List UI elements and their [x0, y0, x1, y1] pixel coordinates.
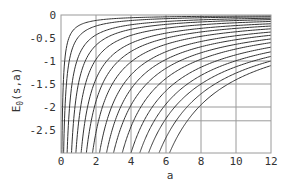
- y-tick-label: -2.5: [30, 124, 57, 137]
- x-tick-label: 8: [198, 155, 205, 168]
- y-tick-label: -1.5: [30, 78, 57, 91]
- y-tick-label: 0: [49, 9, 56, 22]
- x-tick-label: 4: [128, 155, 135, 168]
- x-tick-label: 10: [229, 155, 242, 168]
- y-axis-label: E0(s,a): [10, 68, 25, 113]
- x-tick-label: 0: [58, 155, 65, 168]
- y-tick-label: -2: [43, 101, 56, 114]
- y-tick-label: -0.5: [30, 32, 57, 45]
- y-axis-ticks: 0-0.5-1-1.5-2-2.5: [30, 9, 57, 137]
- x-axis-label: a: [167, 169, 174, 182]
- series-curve-2: [64, 17, 271, 153]
- x-axis-ticks: 024681012: [58, 155, 278, 168]
- y-axis-label-text: E0(s,a): [10, 68, 25, 113]
- series-curve-5: [76, 21, 271, 153]
- chart: 024681012 0-0.5-1-1.5-2-2.5 a E0(s,a): [0, 0, 288, 187]
- series-curve-9: [100, 32, 272, 153]
- x-tick-label: 6: [163, 155, 170, 168]
- x-tick-label: 2: [93, 155, 100, 168]
- y-tick-label: -1: [43, 55, 56, 68]
- x-tick-label: 12: [264, 155, 277, 168]
